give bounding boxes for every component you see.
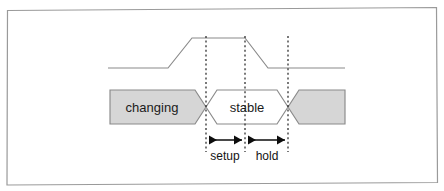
hold-time-label: hold [256,149,279,163]
clock-waveform-group [108,38,345,68]
setup-time-label: setup [210,149,240,163]
hold-time: hold [248,140,285,163]
clock-waveform [108,38,345,68]
bus-segment-next [288,90,345,124]
timing-diagram-canvas: changing stable setuphold [0,0,444,191]
timing-diagram-figure: changing stable setuphold [0,0,444,191]
measurement-annotations: setuphold [209,140,285,163]
bus-label-changing: changing [126,100,179,115]
bus-label-stable: stable [230,100,265,115]
setup-time: setup [209,140,242,163]
